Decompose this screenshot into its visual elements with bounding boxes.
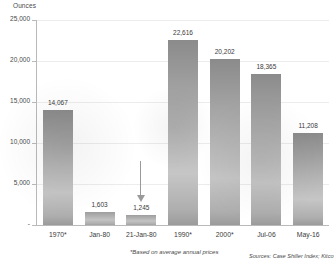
bar xyxy=(293,133,323,225)
y-tick-label: 10,000 xyxy=(2,139,30,146)
bar xyxy=(168,40,198,225)
bar-value-label: 1,603 xyxy=(80,202,120,209)
y-tick-label: 20,000 xyxy=(2,57,30,64)
y-tick: 10,000 xyxy=(0,139,30,147)
bar-value-label: 20,202 xyxy=(205,49,245,56)
arrow-shaft xyxy=(140,161,141,197)
y-tick-label: 5,000 xyxy=(2,180,30,187)
y-tick-label: 25,000 xyxy=(2,16,30,23)
bar xyxy=(43,110,73,225)
bar-value-label: 18,365 xyxy=(246,64,286,71)
bar xyxy=(85,212,115,225)
bar xyxy=(126,215,156,225)
down-arrow-icon xyxy=(135,161,147,203)
bar-value-label: 11,208 xyxy=(288,123,328,130)
y-tick: 15,000 xyxy=(0,98,30,106)
y-tick: 20,000 xyxy=(0,57,30,65)
y-tick: 5,000 xyxy=(0,180,30,188)
bar-value-label: 22,616 xyxy=(163,30,203,37)
y-tick-label: - xyxy=(2,221,30,228)
footnote-basis: *Based on average annual prices xyxy=(130,249,218,255)
bar-value-label: 14,067 xyxy=(38,100,78,107)
y-tick: 25,000 xyxy=(0,16,30,24)
y-tick-label: 15,000 xyxy=(2,98,30,105)
bar xyxy=(251,74,281,225)
arrow-head xyxy=(137,195,145,202)
y-axis-title: Ounces xyxy=(13,2,36,9)
x-axis-line xyxy=(36,225,329,226)
bar-value-label: 1,245 xyxy=(121,205,161,212)
bars-layer xyxy=(37,20,329,225)
y-tick: - xyxy=(0,221,30,229)
x-axis-label: May-16 xyxy=(284,232,332,239)
footnote-sources: Sources: Case Shiller Index; Kitco xyxy=(249,253,334,259)
bar-chart: Ounces -5,00010,00015,00020,00025,000 14… xyxy=(0,0,335,266)
bar xyxy=(210,59,240,225)
